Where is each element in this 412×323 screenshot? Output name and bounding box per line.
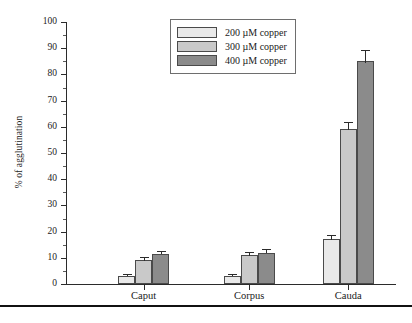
legend-label: 200 µM copper xyxy=(225,27,287,38)
error-bar xyxy=(331,236,332,241)
error-bar-cap xyxy=(123,274,132,275)
error-bar-cap xyxy=(228,274,237,275)
error-bar-cap xyxy=(245,252,254,253)
bar xyxy=(118,276,135,284)
legend-label: 400 µM copper xyxy=(225,55,287,66)
error-bar-cap xyxy=(262,249,271,250)
x-axis-category-label: Corpus xyxy=(224,290,275,301)
legend-swatch xyxy=(177,41,217,52)
bar xyxy=(340,129,357,284)
error-bar xyxy=(266,250,267,252)
bar xyxy=(258,253,275,284)
y-axis-tick-minor xyxy=(63,166,66,167)
error-bar xyxy=(144,258,145,260)
y-axis-line xyxy=(66,22,67,285)
legend-item: 400 µM copper xyxy=(177,54,287,67)
y-axis-tick-label: 30 xyxy=(48,198,58,211)
error-bar-cap xyxy=(140,257,149,258)
y-axis-tick-major: 10 xyxy=(61,258,66,259)
y-axis-tick-major: 90 xyxy=(61,48,66,49)
bar xyxy=(152,254,169,284)
bar xyxy=(135,260,152,284)
error-bar xyxy=(365,51,366,63)
bar xyxy=(323,239,340,284)
y-axis-tick-major: 20 xyxy=(61,232,66,233)
legend-swatch xyxy=(177,27,217,38)
y-axis-tick-major: 0 xyxy=(61,284,66,285)
bar xyxy=(357,61,374,284)
y-axis-tick-label: 20 xyxy=(48,225,58,238)
bar-group: Cauda xyxy=(323,22,374,284)
y-axis-tick-label: 70 xyxy=(48,94,58,107)
y-axis-tick-major: 60 xyxy=(61,127,66,128)
x-axis-line xyxy=(66,284,396,285)
bar xyxy=(241,255,258,284)
y-axis-tick-minor xyxy=(63,35,66,36)
y-axis-tick-label: 60 xyxy=(48,120,58,133)
x-axis-category-label: Caput xyxy=(118,290,169,301)
y-axis-tick-label: 0 xyxy=(52,277,57,290)
y-axis-tick-minor xyxy=(63,219,66,220)
error-bar xyxy=(232,275,233,277)
x-axis-category-label: Cauda xyxy=(323,290,374,301)
y-axis-tick-label: 50 xyxy=(48,146,58,159)
y-axis-tick-major: 50 xyxy=(61,153,66,154)
bar xyxy=(224,276,241,284)
figure: % of agglutination 010203040506070809010… xyxy=(0,0,412,323)
y-axis-tick-label: 80 xyxy=(48,67,58,80)
y-axis-tick-label: 40 xyxy=(48,172,58,185)
error-bar-cap xyxy=(344,122,353,123)
y-axis-tick-major: 30 xyxy=(61,205,66,206)
y-axis-tick-minor xyxy=(63,88,66,89)
y-axis-tick-label: 100 xyxy=(43,15,57,28)
error-bar xyxy=(161,252,162,254)
y-axis-tick-minor xyxy=(63,61,66,62)
error-bar-cap xyxy=(327,235,336,236)
error-bar-cap xyxy=(361,50,370,51)
error-bar xyxy=(127,275,128,277)
legend-label: 300 µM copper xyxy=(225,41,287,52)
y-axis-tick-minor xyxy=(63,245,66,246)
y-axis-tick-minor xyxy=(63,140,66,141)
y-axis-tick-label: 10 xyxy=(48,251,58,264)
y-axis-tick-label: 90 xyxy=(48,41,58,54)
y-axis-tick-minor xyxy=(63,271,66,272)
y-axis-tick-major: 70 xyxy=(61,101,66,102)
y-axis-tick-minor xyxy=(63,192,66,193)
error-bar xyxy=(249,253,250,255)
error-bar-cap xyxy=(157,251,166,252)
y-axis-label: % of agglutination xyxy=(14,92,28,212)
bar-group: Caput xyxy=(118,22,169,284)
y-axis-tick-major: 40 xyxy=(61,179,66,180)
legend-item: 200 µM copper xyxy=(177,26,287,39)
legend: 200 µM copper300 µM copper400 µM copper xyxy=(170,19,296,74)
bottom-divider xyxy=(0,305,412,307)
y-axis-tick-major: 100 xyxy=(61,22,66,23)
y-axis-tick-minor xyxy=(63,114,66,115)
y-axis-tick-major: 80 xyxy=(61,74,66,75)
legend-item: 300 µM copper xyxy=(177,40,287,53)
legend-swatch xyxy=(177,55,217,66)
error-bar xyxy=(348,123,349,131)
